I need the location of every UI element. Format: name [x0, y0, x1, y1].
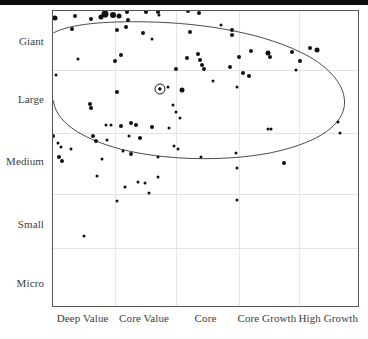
data-point [113, 59, 117, 63]
data-point [105, 138, 108, 141]
data-point [116, 199, 119, 202]
data-point [89, 17, 93, 21]
data-point [202, 67, 206, 71]
data-point [73, 14, 77, 18]
ownership-zone-ellipse [53, 11, 358, 306]
data-point [177, 148, 180, 151]
data-point [270, 128, 273, 131]
x-axis-tick-labels: Deep ValueCore ValueCoreCore GrowthHigh … [52, 312, 359, 332]
data-point [128, 135, 131, 138]
data-point [236, 85, 239, 88]
y-tick-label-giant: Giant [19, 35, 44, 47]
data-point [100, 157, 103, 160]
data-point [230, 28, 234, 32]
data-point [249, 49, 253, 53]
plot-area [52, 10, 359, 307]
top-black-bar [0, 0, 368, 5]
data-point [185, 56, 189, 60]
data-point [129, 121, 133, 125]
x-tick-label-high-growth: High Growth [299, 312, 358, 324]
data-point [290, 50, 294, 54]
data-point [308, 46, 312, 50]
data-point [174, 67, 178, 71]
data-point [70, 148, 73, 151]
data-point [116, 13, 121, 18]
data-point [197, 11, 201, 15]
data-point [125, 10, 129, 14]
data-point [235, 151, 238, 154]
data-point [175, 111, 178, 114]
x-tick-label-core-growth: Core Growth [237, 312, 296, 324]
data-point [338, 132, 341, 135]
data-point [282, 161, 286, 165]
gridline-horizontal-3 [53, 248, 358, 249]
data-point [188, 30, 192, 34]
data-point [134, 123, 138, 127]
data-point [124, 25, 128, 29]
data-point [228, 65, 232, 69]
data-point [95, 175, 98, 178]
y-tick-label-large: Large [18, 93, 44, 105]
data-point [122, 150, 125, 153]
data-point [156, 156, 159, 159]
data-point [115, 90, 119, 94]
data-point [105, 124, 108, 127]
data-point [137, 181, 140, 184]
highlight-center-dot [158, 87, 162, 91]
data-point [298, 59, 302, 63]
data-point [77, 58, 80, 61]
data-point [196, 52, 200, 56]
data-point [186, 10, 190, 13]
data-point [337, 120, 340, 123]
data-point [211, 79, 214, 82]
data-point [268, 55, 272, 59]
data-point [230, 33, 234, 37]
y-tick-label-micro: Micro [17, 277, 44, 289]
y-tick-label-medium: Medium [6, 155, 44, 167]
data-point [178, 117, 181, 120]
data-point [199, 156, 202, 159]
x-tick-label-core: Core [195, 312, 217, 324]
style-box-scatter-figure: GiantLargeMediumSmallMicro Deep ValueCor… [0, 0, 368, 339]
data-point [60, 159, 64, 163]
gridline-vertical-3 [299, 11, 300, 306]
data-point [126, 18, 130, 22]
data-point [123, 185, 126, 188]
gridline-vertical-1 [176, 11, 177, 306]
data-point [266, 128, 269, 131]
data-point [156, 176, 159, 179]
data-point [236, 166, 239, 169]
data-point [52, 134, 55, 138]
data-point [166, 85, 169, 88]
data-point [56, 142, 59, 145]
y-axis-tick-labels: GiantLargeMediumSmallMicro [0, 10, 48, 307]
data-point [82, 235, 85, 238]
data-point [172, 104, 175, 107]
data-point [119, 53, 123, 57]
data-point [119, 124, 123, 128]
data-point [129, 152, 133, 156]
data-point [101, 10, 108, 17]
gridline-horizontal-2 [53, 194, 358, 195]
data-point [180, 88, 185, 93]
x-tick-label-deep-value: Deep Value [57, 312, 109, 324]
data-point [70, 27, 74, 31]
data-point [138, 136, 142, 140]
data-point [55, 73, 58, 76]
data-point [237, 55, 241, 59]
data-point [157, 14, 160, 17]
data-point [91, 134, 95, 138]
data-point [236, 198, 239, 201]
data-point [148, 191, 151, 194]
data-point [143, 182, 146, 185]
data-point [172, 144, 175, 147]
data-point [241, 71, 245, 75]
data-point [198, 58, 202, 62]
data-point [247, 74, 251, 78]
data-point [150, 125, 154, 129]
x-tick-label-core-value: Core Value [119, 312, 169, 324]
data-point [294, 69, 297, 72]
data-point [167, 126, 170, 129]
data-point [89, 106, 93, 110]
data-point [94, 139, 98, 143]
